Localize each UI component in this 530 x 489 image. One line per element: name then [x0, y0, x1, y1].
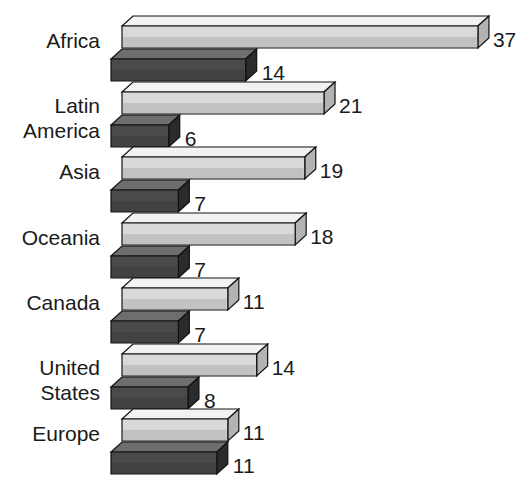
value-label-light-5: 14: [272, 357, 295, 378]
value-label-light-6: 11: [243, 422, 265, 443]
value-label-light-1: 21: [339, 95, 362, 116]
value-label-dark-6: 11: [233, 455, 255, 476]
category-label-0: Africa: [0, 28, 100, 53]
bar-chart: Africa3714Latin America216Asia197Oceania…: [0, 0, 530, 489]
category-label-5: United States: [0, 355, 100, 405]
category-label-1: Latin America: [0, 93, 100, 143]
bar-dark-6: [98, 440, 221, 478]
category-label-2: Asia: [0, 159, 100, 184]
category-label-4: Canada: [0, 290, 100, 315]
category-label-6: Europe: [0, 421, 100, 446]
value-label-light-3: 18: [310, 226, 333, 247]
value-label-light-2: 19: [320, 160, 343, 181]
value-label-light-4: 11: [243, 291, 265, 312]
category-label-3: Oceania: [0, 225, 100, 250]
value-label-light-0: 37: [493, 29, 516, 50]
